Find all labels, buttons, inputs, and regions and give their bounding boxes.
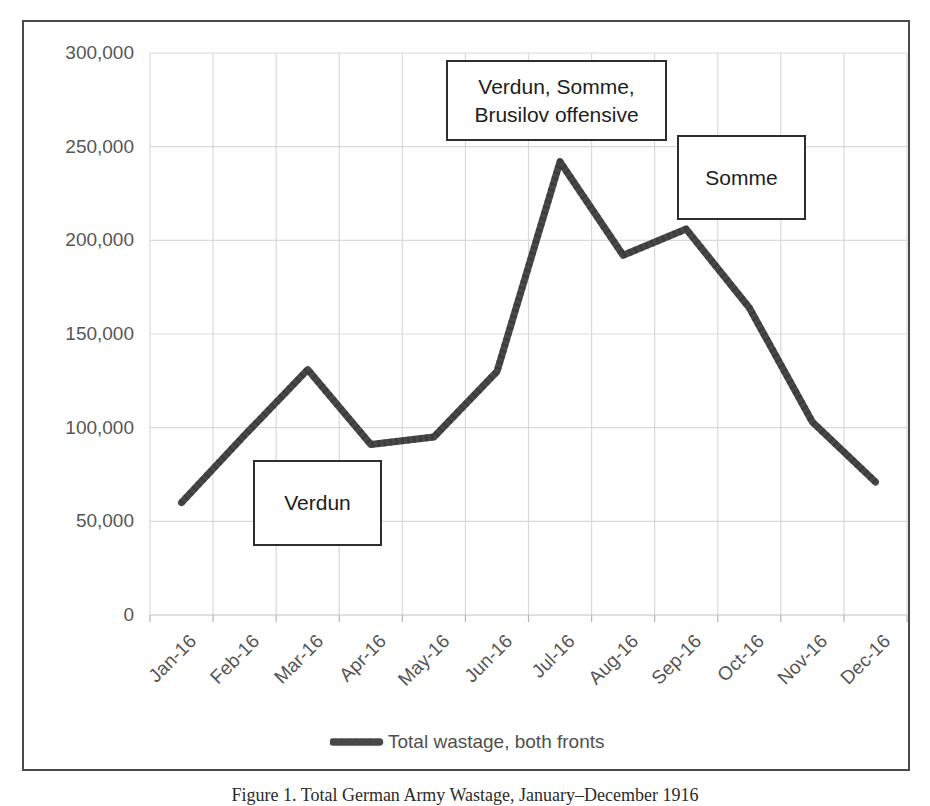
y-axis-tick-label: 50,000 [14, 511, 134, 531]
y-axis-tick-label: 100,000 [14, 418, 134, 438]
y-axis-tick-label: 300,000 [14, 43, 134, 63]
annotation-somme: Somme [677, 135, 806, 220]
y-axis-tick-label: 200,000 [14, 230, 134, 250]
legend-label: Total wastage, both fronts [388, 731, 605, 753]
annotation-verdun-text: Verdun [284, 489, 351, 516]
y-axis-tick-label: 250,000 [14, 137, 134, 157]
annotation-verdun-somme-brusilov: Verdun, Somme, Brusilov offensive [446, 60, 667, 141]
y-axis-tick-label: 150,000 [14, 324, 134, 344]
annotation-somme-text: Somme [705, 164, 777, 191]
figure-caption: Figure 1. Total German Army Wastage, Jan… [0, 785, 930, 806]
legend-line-marker-icon [330, 736, 385, 748]
y-axis-tick-label: 0 [14, 605, 134, 625]
annotation-verdun: Verdun [253, 460, 382, 546]
annotation-verdun-somme-brusilov-text: Verdun, Somme, Brusilov offensive [474, 73, 638, 128]
legend: Total wastage, both fronts [330, 731, 605, 753]
